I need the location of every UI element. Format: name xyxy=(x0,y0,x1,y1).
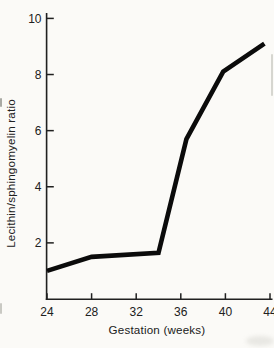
y-tick-label: 8 xyxy=(35,68,42,82)
x-tick-label: 32 xyxy=(130,305,144,319)
x-tick-label: 24 xyxy=(40,305,54,319)
x-tick-label: 44 xyxy=(263,305,274,319)
y-tick-label: 4 xyxy=(35,180,42,194)
x-tick-label: 28 xyxy=(85,305,99,319)
chart-figure: 246810242832364044 Lecithin/sphingomyeli… xyxy=(0,0,274,348)
y-axis-title: Lecithin/sphingomyelin ratio xyxy=(4,99,17,248)
y-tick-label: 2 xyxy=(35,236,42,250)
x-axis-title: Gestation (weeks) xyxy=(109,323,206,336)
ls-ratio-data-line xyxy=(47,44,264,271)
x-tick-label: 36 xyxy=(174,305,188,319)
y-tick-label: 6 xyxy=(35,124,42,138)
ls-ratio-line-chart: 246810242832364044 Lecithin/sphingomyeli… xyxy=(0,0,274,348)
axes xyxy=(46,13,273,300)
x-tick-label: 40 xyxy=(219,305,233,319)
tick-marks-and-labels: 246810242832364044 xyxy=(28,12,274,319)
y-tick-label: 10 xyxy=(28,12,42,26)
